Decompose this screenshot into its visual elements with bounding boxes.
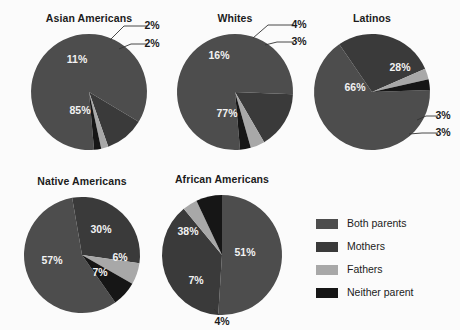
slice-value-label: 3% [435, 126, 451, 138]
slice-value-label: 66% [344, 81, 366, 93]
slice-value-label: 51% [234, 246, 256, 258]
slice-value-label: 2% [144, 19, 160, 31]
slice-value-label: 16% [208, 49, 230, 61]
chart-title: Asian Americans [46, 12, 132, 24]
legend-item-fathers[interactable]: Fathers [316, 263, 383, 275]
slice-value-label: 6% [112, 251, 128, 263]
slice-value-label: 4% [291, 18, 307, 30]
slice-value-label: 7% [188, 274, 204, 286]
legend-swatch [316, 219, 338, 229]
slice-value-label: 4% [214, 315, 230, 327]
legend-swatch [316, 242, 338, 252]
slice-value-label: 38% [177, 225, 199, 237]
slice-value-label: 2% [144, 37, 160, 49]
slice-value-label: 3% [291, 35, 307, 47]
slice-value-label: 77% [216, 107, 238, 119]
slice-value-label: 85% [69, 104, 91, 116]
chart-title: Native Americans [37, 175, 126, 187]
slice-value-label: 11% [67, 53, 88, 65]
chart-title: Whites [217, 12, 252, 24]
legend-item-both-parents[interactable]: Both parents [316, 217, 407, 229]
legend-label: Neither parent [347, 286, 414, 298]
legend-item-neither-parent[interactable]: Neither parent [316, 286, 414, 298]
slice-value-label: 3% [435, 109, 451, 121]
chart-title: Latinos [353, 12, 391, 24]
slice-value-label: 28% [389, 61, 411, 73]
slice-value-label: 30% [90, 223, 112, 235]
pie-chart-figure: 85%11%2%2%Asian Americans77%16%4%3%White… [0, 0, 460, 330]
legend-label: Fathers [347, 263, 383, 275]
legend-swatch [316, 265, 338, 275]
slice-value-label: 7% [92, 266, 108, 278]
legend-swatch [316, 288, 338, 298]
legend-item-mothers[interactable]: Mothers [316, 240, 385, 252]
slice-value-label: 57% [41, 254, 63, 266]
chart-title: African Americans [175, 173, 269, 185]
legend-label: Mothers [347, 240, 385, 252]
legend-label: Both parents [347, 217, 407, 229]
